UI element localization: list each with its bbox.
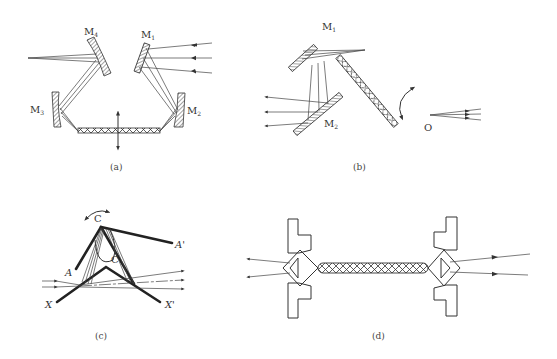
- prism-holder-left: [283, 250, 318, 286]
- panel-c: C C A A' X X' (c): [42, 211, 185, 341]
- label-c-top: C: [94, 213, 102, 224]
- label-m2-b: M2: [324, 118, 338, 130]
- fiber-rod-d: [318, 263, 428, 273]
- incoming-rays-a: [140, 43, 212, 74]
- caption-c: (c): [95, 331, 107, 341]
- label-o: O: [424, 122, 432, 133]
- mirror-m1-b: [288, 44, 317, 71]
- caption-d: (d): [372, 331, 385, 341]
- caption-b: (b): [353, 162, 366, 172]
- mirror-pair-upper: [76, 227, 172, 269]
- panel-d: (d): [248, 217, 530, 341]
- mount-right-upper: [434, 217, 457, 250]
- prism-right: [441, 258, 450, 278]
- label-m3: M3: [30, 104, 44, 116]
- label-m2: M2: [187, 105, 201, 117]
- prism-left: [290, 258, 298, 278]
- sample-slab-a: [78, 128, 160, 133]
- label-m1: M1: [141, 29, 155, 41]
- mount-left-lower: [288, 283, 311, 318]
- label-a-prime: A': [174, 239, 185, 250]
- rotation-arrow-b: [400, 88, 413, 118]
- label-x: X: [44, 299, 53, 310]
- mount-left-upper: [288, 219, 311, 253]
- fan-rays-c: [82, 228, 134, 284]
- beam-rays-c: [42, 271, 183, 289]
- label-x-prime: X': [164, 299, 175, 310]
- panel-a: M4 M1 M3 M2 (a): [28, 26, 212, 172]
- panel-b: M1 M2 O (b): [266, 21, 481, 172]
- grating-b: [336, 55, 398, 128]
- mirror-m4-a: [87, 37, 111, 76]
- caption-a: (a): [110, 162, 122, 172]
- prism-holder-right: [428, 250, 460, 286]
- label-a: A: [64, 267, 72, 278]
- label-m4: M4: [84, 26, 98, 38]
- label-c-inner: C: [111, 254, 119, 265]
- label-m1-b: M1: [322, 21, 336, 33]
- mount-right-lower: [434, 285, 457, 316]
- optics-figure: M4 M1 M3 M2 (a) M1 M2: [0, 0, 557, 359]
- mirror-m3-a: [52, 92, 61, 127]
